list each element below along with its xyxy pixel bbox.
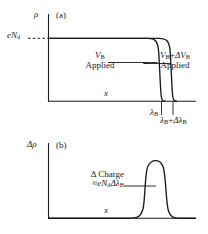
panel-a-label-vb-applied: VB Applied: [78, 51, 122, 70]
panel-a-label-vb-plus-dvb-applied: VB+ΔVB Applied: [145, 51, 205, 70]
panel-a-y-axis-label: ρ: [34, 10, 38, 19]
panel-b-y-axis-label: Δρ: [27, 140, 37, 149]
panel-a-tick-label-lambda-b: λB: [150, 108, 158, 118]
panel-b-annotation: Δ Charge ≈eNdΔλB: [58, 170, 124, 189]
panel-b-tag: (b): [56, 141, 67, 150]
panel-a-tick-label-lambda-b-plus-dlambda-b: λB+ΔλB: [160, 116, 187, 126]
panel-b-x-axis-label: x: [104, 206, 108, 215]
panel-a-x-axis-label: x: [104, 89, 108, 98]
panel-a-tag: (a): [56, 11, 66, 20]
figure-container: ρ (a) eNd VB Applied VB+ΔVB Applied x λB…: [0, 0, 208, 234]
panel-a-eNd-label: eNd: [7, 31, 20, 41]
